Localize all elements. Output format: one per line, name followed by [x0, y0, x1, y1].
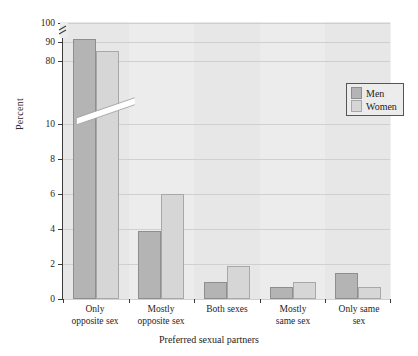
x-axis-title: Preferred sexual partners [0, 334, 418, 345]
y-tick-mark [58, 229, 63, 230]
legend-swatch-men-icon [351, 87, 362, 99]
bar-women-mostly-same-sex [293, 282, 316, 300]
bar-women-both-sexes [227, 266, 250, 299]
x-axis-label-both-sexes: Both sexes [189, 304, 265, 316]
bar-women-only-same-sex [358, 287, 381, 299]
y-axis-title-container: Percent [0, 0, 40, 300]
x-tick-mark [194, 299, 195, 303]
y-tick-mark [58, 61, 63, 62]
gridline-90 [63, 42, 390, 43]
x-tick-mark [129, 299, 130, 303]
x-label-line1: Only [57, 304, 133, 316]
legend-label-women: Women [366, 101, 397, 112]
bar-men-mostly-opposite-sex [138, 231, 161, 299]
x-label-line1: Both sexes [189, 304, 265, 316]
y-tick-label-6: 6 [50, 189, 55, 199]
x-axis-label-only-same-sex: Only same sex [321, 304, 397, 327]
x-label-line2: same sex [255, 316, 331, 328]
gridline-0 [63, 299, 390, 300]
x-label-line1: Mostly [123, 304, 199, 316]
bar-men-only-same-sex [335, 273, 358, 299]
bar-women-mostly-opposite-sex [161, 194, 184, 299]
y-tick-mark [58, 42, 63, 43]
bar-men-mostly-same-sex [270, 287, 293, 299]
y-axis-title: Percent [14, 50, 25, 130]
bar-chart: Percent 0 2 4 6 8 10 80 90 100 [0, 0, 418, 356]
y-tick-label-4: 4 [50, 224, 55, 234]
x-label-line2: opposite sex [123, 316, 199, 328]
plot-area: 0 2 4 6 8 10 80 90 100 [62, 22, 390, 300]
legend-item-women: Women [351, 100, 397, 112]
y-tick-label-8: 8 [50, 154, 55, 164]
y-tick-label-0: 0 [50, 294, 55, 304]
y-tick-label-10: 10 [46, 119, 56, 129]
axis-break-icon [57, 22, 70, 38]
x-axis-label-only-opposite-sex: Only opposite sex [57, 304, 133, 327]
y-tick-label-100: 100 [41, 18, 55, 28]
legend-label-men: Men [366, 88, 384, 99]
legend-swatch-women-icon [351, 100, 362, 112]
gridline-100 [63, 23, 390, 24]
y-tick-label-80: 80 [46, 56, 56, 66]
x-axis-label-mostly-opposite-sex: Mostly opposite sex [123, 304, 199, 327]
y-tick-mark [58, 194, 63, 195]
x-label-line2: opposite sex [57, 316, 133, 328]
x-label-line1: Mostly [255, 304, 331, 316]
y-tick-mark [58, 159, 63, 160]
x-tick-mark [325, 299, 326, 303]
x-tick-mark [260, 299, 261, 303]
category-band [325, 22, 391, 299]
bar-men-both-sexes [204, 282, 227, 300]
legend: Men Women [346, 83, 404, 116]
x-tick-mark [63, 299, 64, 303]
x-axis-label-mostly-same-sex: Mostly same sex [255, 304, 331, 327]
x-label-line2: sex [321, 316, 397, 328]
bar-men-only-opposite-sex [73, 39, 96, 299]
y-tick-mark [58, 264, 63, 265]
legend-item-men: Men [351, 87, 397, 99]
x-label-line1: Only same [321, 304, 397, 316]
y-tick-label-2: 2 [50, 259, 55, 269]
y-tick-mark [58, 124, 63, 125]
category-band [194, 22, 260, 299]
y-tick-label-90: 90 [46, 37, 56, 47]
bar-women-only-opposite-sex [96, 51, 119, 299]
x-tick-mark [390, 299, 391, 303]
